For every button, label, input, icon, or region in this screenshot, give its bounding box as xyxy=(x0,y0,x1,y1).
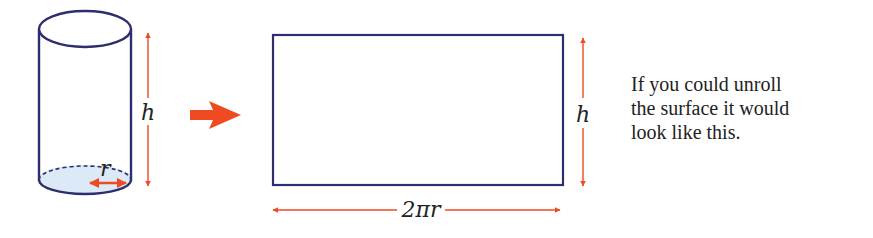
rect-height-label: h xyxy=(576,102,590,127)
right-arrow-icon xyxy=(190,101,241,129)
caption-line: If you could unroll xyxy=(631,72,871,96)
unrolled-rectangle xyxy=(273,35,563,185)
cylinder-top xyxy=(39,11,131,47)
rectangle-width-indicator: 2πr xyxy=(273,197,560,222)
cylinder-height-label: h xyxy=(141,100,155,125)
cylinder: r xyxy=(39,11,131,194)
caption-line: the surface it would xyxy=(631,96,871,120)
caption-line: look like this. xyxy=(631,120,871,144)
radius-label: r xyxy=(100,156,112,181)
rect-width-label: 2πr xyxy=(401,197,442,222)
rectangle-height-indicator: h xyxy=(576,38,590,186)
cylinder-height-indicator: h xyxy=(141,33,155,186)
caption: If you could unroll the surface it would… xyxy=(631,72,871,144)
